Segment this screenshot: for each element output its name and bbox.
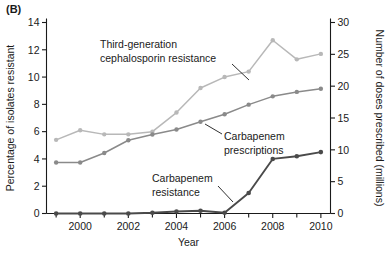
y-tick-label-right: 15 <box>338 112 350 124</box>
y-tick-label-right: 10 <box>338 144 350 156</box>
series-carbapenem-resistance-point <box>270 157 275 162</box>
series-carbapenem-prescriptions-point <box>102 151 106 155</box>
series-carbapenem-resistance-point <box>222 211 227 216</box>
series-cephalosporin-resistance-point <box>246 69 250 73</box>
y-tick-label-right: 30 <box>338 16 350 28</box>
series-carbapenem-prescriptions-point <box>222 112 226 116</box>
series-carbapenem-prescriptions-point <box>174 127 178 131</box>
series-carbapenem-prescriptions-point <box>126 138 130 142</box>
series-carbapenem-prescriptions-point <box>271 94 275 98</box>
annotation-cephalosporin-line2: cephalosporin resistance <box>100 52 216 64</box>
series-cephalosporin-resistance-point <box>126 132 130 136</box>
series-carbapenem-resistance-point <box>319 150 324 155</box>
series-cephalosporin-resistance-point <box>319 52 323 56</box>
y-tick-label-right: 5 <box>338 175 344 187</box>
series-carbapenem-prescriptions-point <box>295 90 299 94</box>
y-tick-label-left: 10 <box>28 71 40 83</box>
x-tick-label: 2004 <box>165 220 189 232</box>
series-carbapenem-prescriptions-point <box>150 132 154 136</box>
y-tick-label-left: 8 <box>34 98 40 110</box>
series-carbapenem-resistance-point <box>78 211 83 216</box>
y-tick-label-left: 4 <box>34 153 40 165</box>
series-cephalosporin-resistance-point <box>271 38 275 42</box>
annotation-prescriptions-line1: Carbapenem <box>224 130 285 142</box>
series-carbapenem-prescriptions-point <box>198 120 202 124</box>
series-carbapenem-prescriptions-point <box>246 102 250 106</box>
series-cephalosporin-resistance-point <box>198 86 202 90</box>
series-carbapenem-resistance-point <box>246 191 251 196</box>
y-tick-label-left: 12 <box>28 44 40 56</box>
x-tick-label: 2000 <box>69 220 93 232</box>
series-carbapenem-resistance-point <box>102 211 107 216</box>
series-cephalosporin-resistance-point <box>78 128 82 132</box>
annotation-prescriptions-line2: prescriptions <box>224 144 284 156</box>
series-cephalosporin-resistance-point <box>174 110 178 114</box>
figure-panel-b: (B) 024681012140510152025302000200220042… <box>0 0 389 257</box>
series-carbapenem-resistance-point <box>54 211 59 216</box>
series-cephalosporin-resistance-point <box>295 57 299 61</box>
series-cephalosporin-resistance-point <box>102 132 106 136</box>
y-tick-label-right: 20 <box>338 80 350 92</box>
series-carbapenem-resistance-point <box>295 154 300 159</box>
series-carbapenem-prescriptions-point <box>319 87 323 91</box>
series-carbapenem-resistance-point <box>198 208 203 213</box>
y-axis-title-left: Percentage of isolates resistant <box>4 45 16 192</box>
chart-canvas: 0246810121405101520253020002002200420062… <box>0 0 389 257</box>
y-axis-title-right: Number of doses prescribed (millions) <box>374 30 386 207</box>
series-carbapenem-resistance-point <box>126 211 131 216</box>
y-tick-label-right: 25 <box>338 48 350 60</box>
x-tick-label: 2008 <box>261 220 285 232</box>
series-carbapenem-resistance-point <box>174 209 179 214</box>
series-cephalosporin-resistance-point <box>54 138 58 142</box>
series-carbapenem-prescriptions-point <box>54 160 58 164</box>
annotation-prescriptions-leader <box>205 124 222 134</box>
y-tick-label-left: 2 <box>34 180 40 192</box>
annotation-carbapenem-leader <box>218 186 233 202</box>
x-tick-label: 2002 <box>117 220 141 232</box>
y-tick-label-left: 14 <box>28 16 40 28</box>
annotation-carbapenem-line1: Carbapenem <box>152 172 213 184</box>
y-tick-label-left: 0 <box>34 207 40 219</box>
x-tick-label: 2006 <box>213 220 237 232</box>
x-axis-title: Year <box>178 236 200 248</box>
series-carbapenem-prescriptions-point <box>78 160 82 164</box>
series-cephalosporin-resistance-point <box>222 75 226 79</box>
x-tick-label: 2010 <box>309 220 333 232</box>
y-tick-label-left: 6 <box>34 125 40 137</box>
annotation-cephalosporin-line1: Third-generation <box>100 38 177 50</box>
annotation-carbapenem-line2: resistance <box>152 186 200 198</box>
y-tick-label-right: 0 <box>338 207 344 219</box>
series-carbapenem-resistance-point <box>150 211 155 216</box>
